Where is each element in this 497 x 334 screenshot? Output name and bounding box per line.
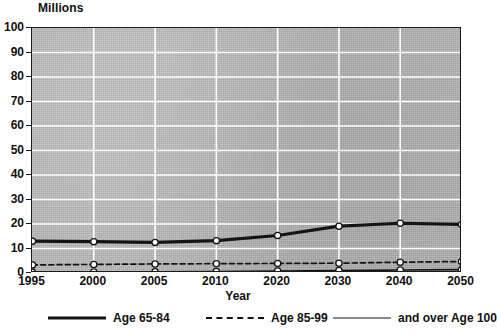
x-tick-label: 2000 <box>67 274 119 288</box>
data-point-marker <box>336 260 342 266</box>
data-point-marker <box>458 221 461 227</box>
y-tick-label: 80 <box>0 70 24 82</box>
data-point-marker <box>336 267 342 272</box>
data-point-marker <box>91 261 97 267</box>
data-point-marker <box>213 238 219 244</box>
x-tick-label: 2005 <box>128 274 180 288</box>
legend-label: Age 65-84 <box>113 311 170 325</box>
data-point-marker <box>91 269 97 272</box>
data-point-marker <box>458 266 461 272</box>
x-tick-label: 2010 <box>189 274 241 288</box>
data-point-marker <box>275 260 281 266</box>
legend-line-swatch-icon <box>333 314 391 323</box>
y-tick-label: 50 <box>0 144 24 156</box>
legend-line-swatch-icon <box>48 314 106 323</box>
data-point-marker <box>32 238 36 244</box>
y-tick-label: 30 <box>0 193 24 205</box>
data-point-marker <box>397 259 403 265</box>
legend-entry-2: and over Age 100 <box>333 309 497 327</box>
x-tick-label: 2050 <box>435 274 487 288</box>
legend-entry-0: Age 65-84 <box>48 309 170 327</box>
data-point-marker <box>152 239 158 245</box>
y-tick-label: 10 <box>0 242 24 254</box>
series-lines <box>32 28 461 272</box>
data-point-marker <box>152 269 158 272</box>
y-tick-label: 40 <box>0 168 24 180</box>
data-point-marker <box>275 232 281 238</box>
y-tick-mark <box>26 272 31 273</box>
x-tick-label: 2040 <box>373 274 425 288</box>
data-point-marker <box>397 220 403 226</box>
x-axis-title: Year <box>0 289 476 303</box>
data-point-marker <box>397 267 403 272</box>
data-point-marker <box>336 223 342 229</box>
x-tick-label: 1995 <box>6 274 58 288</box>
data-point-marker <box>32 262 36 268</box>
x-tick-label: 2030 <box>312 274 364 288</box>
legend-line-swatch-icon <box>206 314 264 323</box>
plot-area <box>31 27 461 272</box>
y-axis-unit-label: Millions <box>38 1 83 15</box>
data-point-marker <box>213 261 219 267</box>
y-tick-label: 60 <box>0 119 24 131</box>
data-point-marker <box>32 269 36 272</box>
data-point-marker <box>213 268 219 272</box>
data-point-marker <box>275 268 281 272</box>
data-point-marker <box>458 258 461 264</box>
x-tick-label: 2020 <box>251 274 303 288</box>
legend-label: Age 85-99 <box>271 311 328 325</box>
y-tick-label: 100 <box>0 21 24 33</box>
data-point-marker <box>91 239 97 245</box>
y-tick-label: 90 <box>0 46 24 58</box>
y-tick-label: 20 <box>0 217 24 229</box>
y-tick-label: 70 <box>0 95 24 107</box>
chart-legend: Age 65-84Age 85-99and over Age 100 <box>0 309 476 331</box>
data-point-marker <box>152 261 158 267</box>
legend-label: and over Age 100 <box>398 311 497 325</box>
legend-entry-1: Age 85-99 <box>206 309 328 327</box>
